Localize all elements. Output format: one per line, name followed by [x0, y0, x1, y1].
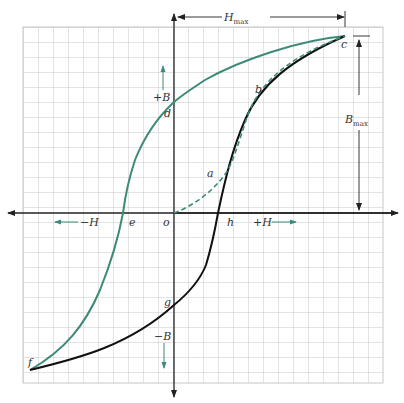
hysteresis-diagram: Hmax Bmax +B −B −H +H o a b c d e f [0, 0, 404, 403]
plus-b-label: +B [153, 91, 170, 104]
point-b: b [255, 83, 262, 96]
h-max-subscript: max [234, 18, 249, 26]
point-d: d [164, 107, 171, 120]
b-max-label: B [344, 113, 353, 126]
point-a: a [207, 167, 214, 180]
plus-h-label: +H [253, 216, 272, 229]
point-c: c [341, 38, 347, 51]
b-max-subscript: max [353, 120, 368, 128]
minus-h-label: −H [80, 216, 99, 229]
h-max-label: H [223, 11, 234, 24]
point-h: h [227, 216, 234, 229]
svg-text:Hmax: Hmax [223, 11, 248, 26]
point-o: o [163, 216, 170, 229]
point-e: e [129, 216, 136, 229]
h-max-dimension: Hmax [178, 11, 345, 27]
point-g: g [164, 296, 171, 309]
minus-b-label: −B [154, 330, 171, 343]
